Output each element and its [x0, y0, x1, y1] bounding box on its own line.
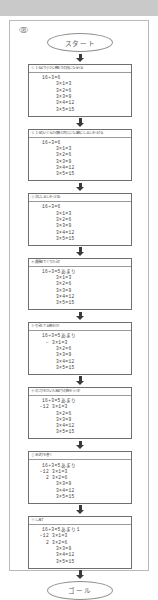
- flow-step-1: ① １６より小さい数を３の段にならべる16÷3=63×1=33×2=63×3=9…: [28, 64, 132, 117]
- flow-step-6: ⑥ のこりをひいたあまりの数をうつす16÷3=5あまり−12 3×1=33×2=…: [28, 387, 132, 440]
- arrow-head-icon: [76, 123, 84, 127]
- subtraction-note: 2: [35, 475, 49, 481]
- step-header: ⑤ 引きたてる数をひく: [29, 323, 131, 331]
- step-header: ⑧ しあげ: [29, 517, 131, 525]
- row-text: 3×2=6: [49, 540, 68, 545]
- step-header: ④ 最後までくりかえす: [29, 259, 131, 267]
- step-body: 16÷3=63×1=33×2=63×3=93×4=123×5=15: [29, 202, 131, 245]
- subtraction-note: 2: [35, 540, 49, 546]
- multiplication-row: 3×5=15: [31, 236, 129, 242]
- arrow-head-icon: [76, 445, 84, 449]
- row-text: 3×1=3: [49, 340, 68, 345]
- step-body: 16÷3=5あまり− 3×1=33×2=63×3=93×4=123×5=15: [29, 331, 131, 374]
- step-body: 16÷3=5あまり−12 3×1=32 3×2=63×3=93×4=123×5=…: [29, 460, 131, 503]
- flowchart: スタート① １６より小さい数を３の段にならべる16÷3=63×1=33×2=63…: [10, 21, 150, 600]
- subtraction-note: −: [35, 340, 49, 346]
- flow-arrow-5: [76, 376, 84, 385]
- flow-step-4: ④ 最後までくりかえす16÷3=5あまり3×1=33×2=63×3=93×4=1…: [28, 258, 132, 311]
- flow-arrow-7: [76, 505, 84, 514]
- subtraction-note: −12: [35, 404, 49, 410]
- row-text: 3×1=3: [49, 404, 68, 409]
- row-text: 3×1=3: [49, 533, 68, 538]
- flow-step-2: ② １６のいくらかの数と同じになる数にしるしをつける16÷3=63×1=33×2…: [28, 129, 132, 182]
- arrow-head-icon: [76, 187, 84, 191]
- step-header: ③ 次にしるしをつける: [29, 194, 131, 202]
- step-body: 16÷3=63×1=33×2=63×3=93×4=123×5=15: [29, 73, 131, 116]
- flow-arrow-6: [76, 441, 84, 450]
- row-text: 3×1=3: [49, 469, 68, 474]
- multiplication-row: 3×5=15: [31, 171, 129, 177]
- step-body: 16÷3=5あまり1−12 3×1=32 3×2=63×3=93×4=123×5…: [29, 525, 131, 568]
- flow-step-3: ③ 次にしるしをつける16÷3=63×1=33×2=63×3=93×4=123×…: [28, 193, 132, 246]
- flow-arrow-1: [76, 118, 84, 127]
- multiplication-row: 3×5=15: [31, 429, 129, 435]
- flow-arrow-2: [76, 183, 84, 192]
- step-header: ② １６のいくらかの数と同じになる数にしるしをつける: [29, 130, 131, 138]
- multiplication-row: 3×5=15: [31, 494, 129, 500]
- flow-step-8: ⑧ しあげ16÷3=5あまり1−12 3×1=32 3×2=63×3=93×4=…: [28, 516, 132, 569]
- arrow-head-icon: [76, 252, 84, 256]
- arrow-head-icon: [76, 510, 84, 514]
- document-page: 〈図〉 スタート① １６より小さい数を３の段にならべる16÷3=63×1=33×…: [9, 20, 149, 571]
- goal-terminal: ゴール: [47, 581, 113, 600]
- row-text: 3×2=6: [49, 475, 68, 480]
- flow-step-7: ⑦ あまりを書く16÷3=5あまり−12 3×1=32 3×2=63×3=93×…: [28, 451, 132, 504]
- step-header: ① １６より小さい数を３の段にならべる: [29, 65, 131, 73]
- arrow-head-icon: [76, 58, 84, 62]
- arrow-head-icon: [76, 316, 84, 320]
- multiplication-row: 3×5=15: [31, 107, 129, 113]
- step-body: 16÷3=5あまり−12 3×1=33×2=63×3=93×4=123×5=15: [29, 396, 131, 439]
- top-gray-band: [0, 0, 158, 16]
- step-header: ⑥ のこりをひいたあまりの数をうつす: [29, 388, 131, 396]
- flow-arrow-0: [76, 54, 84, 63]
- step-body: 16÷3=5あまり3×1=33×2=63×3=93×4=123×5=15: [29, 267, 131, 310]
- flow-step-5: ⑤ 引きたてる数をひく16÷3=5あまり− 3×1=33×2=63×3=93×4…: [28, 322, 132, 375]
- multiplication-row: 3×5=15: [31, 559, 129, 565]
- multiplication-row: 3×5=15: [31, 365, 129, 371]
- arrow-head-icon: [76, 575, 84, 579]
- step-header: ⑦ あまりを書く: [29, 452, 131, 460]
- flow-arrow-3: [76, 247, 84, 256]
- multiplication-row: 3×5=15: [31, 300, 129, 306]
- arrow-head-icon: [76, 381, 84, 385]
- flow-arrow-4: [76, 312, 84, 321]
- start-terminal: スタート: [47, 33, 113, 52]
- step-body: 16÷3=63×1=33×2=63×3=93×4=123×5=15: [29, 138, 131, 181]
- flow-arrow-goal: [76, 570, 84, 579]
